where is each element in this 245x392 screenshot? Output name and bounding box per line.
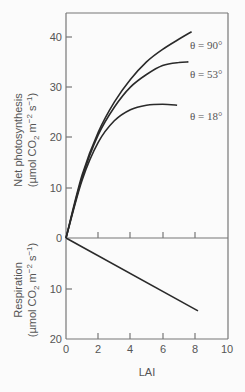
x-tick-label: 4 xyxy=(127,343,133,355)
data-series xyxy=(66,32,198,311)
respiration-line xyxy=(66,238,198,311)
y-tick-label: 30 xyxy=(50,81,62,93)
bottom-y-title-units: (µmol CO2 m−2 s−1) xyxy=(25,243,41,337)
x-tick-label: 6 xyxy=(160,343,166,355)
top-y-title-units: (µmol CO2 m−2 s−1) xyxy=(25,93,41,187)
curve-label-theta-18: θ = 18° xyxy=(190,110,222,122)
y-tick-label: 20 xyxy=(50,333,62,345)
bottom-y-title-line1: Respiration xyxy=(12,262,24,318)
top-y-ticks xyxy=(66,37,72,188)
x-tick-label: 10 xyxy=(221,343,233,355)
chart-canvas: 40 30 20 10 0 10 20 0 2 4 6 8 10 LAI Net… xyxy=(0,0,245,392)
top-y-axis-title: Net photosynthesis (µmol CO2 m−2 s−1) xyxy=(12,93,41,188)
y-tick-label: 10 xyxy=(50,283,62,295)
x-tick-label: 8 xyxy=(192,343,198,355)
x-tick-label: 2 xyxy=(95,343,101,355)
curve-label-theta-53: θ = 53° xyxy=(190,68,222,80)
top-y-tick-labels: 40 30 20 10 0 xyxy=(50,31,62,244)
y-tick-label: 10 xyxy=(50,182,62,194)
middle-x-ticks xyxy=(98,232,195,238)
y-tick-label: 40 xyxy=(50,31,62,43)
photosynthesis-curve xyxy=(66,62,188,238)
x-tick-labels: 0 2 4 6 8 10 xyxy=(63,343,233,355)
bottom-y-axis-title: Respiration (µmol CO2 m−2 s−1) xyxy=(12,243,41,337)
x-tick-label: 0 xyxy=(63,343,69,355)
curve-label-theta-90: θ = 90° xyxy=(190,39,222,51)
top-y-title-line1: Net photosynthesis xyxy=(12,93,24,187)
x-axis-title: LAI xyxy=(139,366,156,378)
y-tick-label: 20 xyxy=(50,131,62,143)
x-ticks xyxy=(98,333,195,339)
y-tick-label: 0 xyxy=(56,232,62,244)
bottom-y-tick-labels: 10 20 xyxy=(50,283,62,345)
